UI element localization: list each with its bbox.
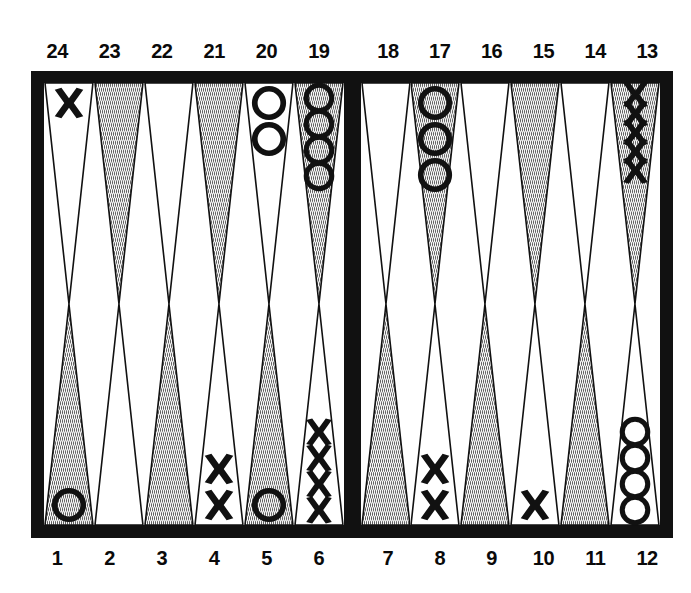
point-15[interactable] xyxy=(510,83,560,304)
point-label-4: 4 xyxy=(188,545,240,571)
point-5[interactable] xyxy=(244,304,294,525)
point-triangle-12 xyxy=(610,304,660,525)
point-label-17: 17 xyxy=(414,38,466,64)
board-frame xyxy=(31,71,673,538)
bottom-left-label-group: 1 2 3 4 5 6 xyxy=(31,545,345,571)
point-1[interactable] xyxy=(44,304,94,525)
point-triangle-21 xyxy=(194,83,244,304)
point-triangle-11 xyxy=(560,304,610,525)
point-label-6: 6 xyxy=(293,545,345,571)
point-triangle-10 xyxy=(510,304,560,525)
point-label-19: 19 xyxy=(293,38,345,64)
backgammon-board-figure: 24 23 22 21 20 19 18 17 16 15 14 13 xyxy=(0,0,691,593)
point-label-22: 22 xyxy=(136,38,188,64)
point-4[interactable] xyxy=(194,304,244,525)
point-label-9: 9 xyxy=(466,545,518,571)
point-label-11: 11 xyxy=(569,545,621,571)
bottom-point-labels: 1 2 3 4 5 6 7 8 9 10 11 12 xyxy=(31,545,673,571)
bottom-right-label-group: 7 8 9 10 11 12 xyxy=(362,545,673,571)
point-label-1: 1 xyxy=(31,545,83,571)
point-14[interactable] xyxy=(560,83,610,304)
top-left-quadrant xyxy=(44,83,344,304)
point-24[interactable] xyxy=(44,83,94,304)
point-label-3: 3 xyxy=(136,545,188,571)
point-12[interactable] xyxy=(610,304,660,525)
point-triangle-5 xyxy=(244,304,294,525)
point-label-12: 12 xyxy=(621,545,673,571)
point-triangle-24 xyxy=(44,83,94,304)
point-triangle-13 xyxy=(610,83,660,304)
point-label-24: 24 xyxy=(31,38,83,64)
point-triangle-22 xyxy=(144,83,194,304)
right-half xyxy=(361,83,661,525)
top-point-labels: 24 23 22 21 20 19 18 17 16 15 14 13 xyxy=(31,38,673,64)
point-triangle-20 xyxy=(244,83,294,304)
point-label-21: 21 xyxy=(188,38,240,64)
point-11[interactable] xyxy=(560,304,610,525)
point-label-10: 10 xyxy=(517,545,569,571)
left-half xyxy=(44,83,344,525)
point-6[interactable] xyxy=(294,304,344,525)
point-23[interactable] xyxy=(94,83,144,304)
top-right-quadrant xyxy=(361,83,661,304)
point-20[interactable] xyxy=(244,83,294,304)
point-label-15: 15 xyxy=(517,38,569,64)
point-label-8: 8 xyxy=(414,545,466,571)
point-9[interactable] xyxy=(460,304,510,525)
point-3[interactable] xyxy=(144,304,194,525)
point-triangle-4 xyxy=(194,304,244,525)
board-playing-surface xyxy=(44,83,660,525)
point-triangle-1 xyxy=(44,304,94,525)
top-left-label-group: 24 23 22 21 20 19 xyxy=(31,38,345,64)
point-triangle-15 xyxy=(510,83,560,304)
point-10[interactable] xyxy=(510,304,560,525)
point-label-18: 18 xyxy=(362,38,414,64)
bottom-left-quadrant xyxy=(44,304,344,525)
point-19[interactable] xyxy=(294,83,344,304)
point-18[interactable] xyxy=(361,83,411,304)
point-7[interactable] xyxy=(361,304,411,525)
point-triangle-17 xyxy=(410,83,460,304)
point-triangle-7 xyxy=(361,304,411,525)
point-label-20: 20 xyxy=(240,38,292,64)
point-2[interactable] xyxy=(94,304,144,525)
point-21[interactable] xyxy=(194,83,244,304)
point-label-23: 23 xyxy=(83,38,135,64)
point-label-13: 13 xyxy=(621,38,673,64)
point-8[interactable] xyxy=(410,304,460,525)
top-right-label-group: 18 17 16 15 14 13 xyxy=(362,38,673,64)
point-triangle-3 xyxy=(144,304,194,525)
point-triangle-16 xyxy=(460,83,510,304)
point-16[interactable] xyxy=(460,83,510,304)
point-13[interactable] xyxy=(610,83,660,304)
point-triangle-6 xyxy=(294,304,344,525)
point-triangle-14 xyxy=(560,83,610,304)
point-label-5: 5 xyxy=(240,545,292,571)
point-22[interactable] xyxy=(144,83,194,304)
point-label-14: 14 xyxy=(569,38,621,64)
point-label-16: 16 xyxy=(466,38,518,64)
point-triangle-9 xyxy=(460,304,510,525)
point-triangle-2 xyxy=(94,304,144,525)
point-triangle-18 xyxy=(361,83,411,304)
point-label-7: 7 xyxy=(362,545,414,571)
point-triangle-8 xyxy=(410,304,460,525)
point-triangle-23 xyxy=(94,83,144,304)
center-bar xyxy=(344,83,361,525)
point-triangle-19 xyxy=(294,83,344,304)
bottom-right-quadrant xyxy=(361,304,661,525)
point-label-2: 2 xyxy=(83,545,135,571)
point-17[interactable] xyxy=(410,83,460,304)
